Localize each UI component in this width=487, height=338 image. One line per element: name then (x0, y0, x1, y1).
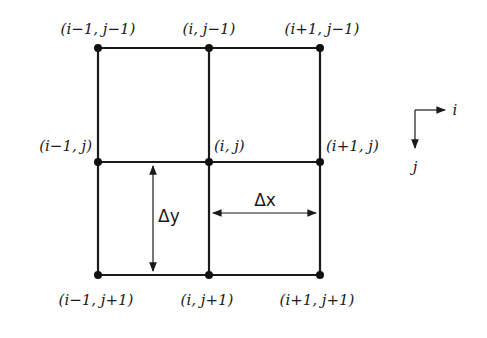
node-ip1-jm1 (316, 44, 324, 52)
node-ip1-j (316, 158, 324, 166)
node-im1-jm1 (94, 44, 102, 52)
j-axis-label: j (410, 158, 418, 176)
node-label-i-jp1: (i, j+1) (181, 291, 234, 309)
node-label-im1-j: (i−1, j) (39, 137, 92, 155)
node-label-i-j: (i, j) (214, 137, 245, 155)
node-label-ip1-jp1: (i+1, j+1) (280, 291, 355, 309)
node-im1-jp1 (94, 271, 102, 279)
i-axis-label: i (453, 101, 458, 119)
node-ip1-jp1 (316, 271, 324, 279)
node-im1-j (94, 158, 102, 166)
node-i-jp1 (205, 271, 213, 279)
node-i-j (205, 158, 213, 166)
node-label-i-jm1: (i, j−1) (183, 20, 236, 38)
dimension-dx: Δx (213, 190, 316, 213)
dimension-dy: Δy (153, 166, 180, 271)
node-label-ip1-jm1: (i+1, j−1) (285, 20, 360, 38)
node-label-im1-jm1: (i−1, j−1) (61, 20, 136, 38)
axes-indicator: i j (410, 101, 458, 176)
finite-difference-grid-diagram: (i−1, j−1) (i, j−1) (i+1, j−1) (i−1, j) … (0, 0, 487, 338)
dy-label: Δy (158, 206, 180, 226)
node-i-jm1 (205, 44, 213, 52)
dx-label: Δx (254, 190, 276, 210)
node-label-im1-jp1: (i−1, j+1) (59, 291, 134, 309)
node-label-ip1-j: (i+1, j) (326, 137, 379, 155)
